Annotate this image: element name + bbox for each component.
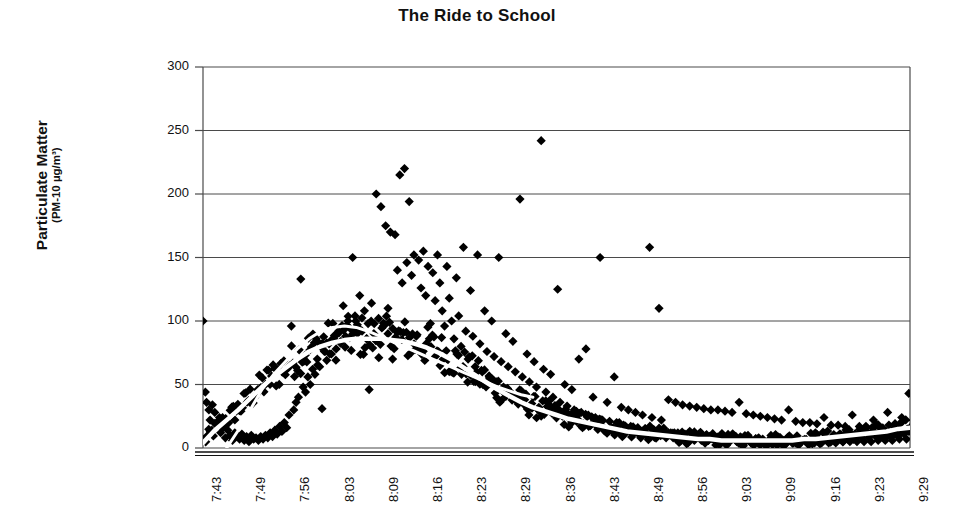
x-axis-line	[195, 452, 914, 456]
x-tick-label: 7:43	[209, 477, 224, 502]
gridlines	[203, 67, 910, 448]
x-tick-label: 9:09	[783, 477, 798, 502]
x-tick-label: 9:03	[739, 477, 754, 502]
x-tick-label: 8:49	[651, 477, 666, 502]
y-tick-label: 300	[143, 58, 189, 73]
x-tick-label: 8:03	[342, 477, 357, 502]
y-tick-label: 100	[143, 312, 189, 327]
x-tick-label: 8:36	[563, 477, 578, 502]
chart-container: The Ride to School Particulate Matter (P…	[0, 0, 954, 525]
x-tick-label: 9:23	[872, 477, 887, 502]
x-tick-label: 8:56	[695, 477, 710, 502]
dense-marker-band	[200, 312, 914, 451]
y-tick-label: 250	[143, 122, 189, 137]
y-axis-ticks	[195, 67, 203, 448]
x-tick-label: 8:09	[386, 477, 401, 502]
scatter-markers	[198, 136, 914, 447]
x-tick-label: 8:43	[607, 477, 622, 502]
y-tick-label: 200	[143, 185, 189, 200]
y-tick-label: 150	[143, 249, 189, 264]
x-tick-label: 8:29	[518, 477, 533, 502]
x-tick-label: 8:16	[430, 477, 445, 502]
x-tick-label: 7:49	[253, 477, 268, 502]
x-tick-label: 7:56	[297, 477, 312, 502]
x-tick-label: 8:23	[474, 477, 489, 502]
y-tick-label: 0	[143, 439, 189, 454]
y-tick-label: 50	[143, 376, 189, 391]
x-tick-label: 9:16	[828, 477, 843, 502]
x-tick-label: 9:29	[916, 477, 931, 502]
